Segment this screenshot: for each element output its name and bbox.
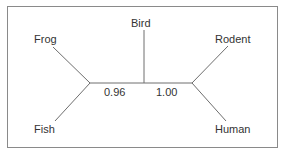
branch-human bbox=[192, 83, 226, 121]
taxon-human: Human bbox=[215, 123, 250, 135]
taxon-rodent: Rodent bbox=[215, 33, 250, 45]
support-value-right: 1.00 bbox=[156, 86, 177, 98]
taxon-fish: Fish bbox=[34, 123, 55, 135]
taxon-bird: Bird bbox=[131, 17, 151, 29]
support-value-left: 0.96 bbox=[104, 86, 125, 98]
branch-rodent bbox=[192, 46, 228, 83]
branch-frog bbox=[53, 47, 90, 83]
taxon-frog: Frog bbox=[34, 33, 57, 45]
branch-fish bbox=[55, 83, 90, 121]
